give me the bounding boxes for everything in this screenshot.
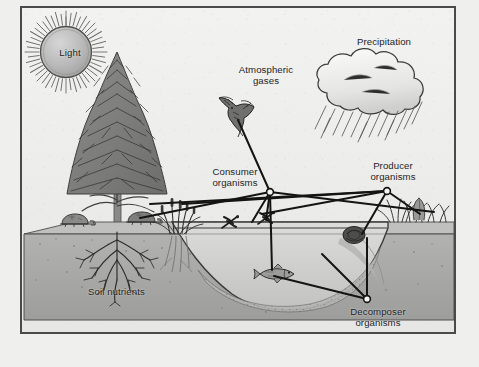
ecosystem-diagram: Light Atmospheric gases Precipitation Co…: [0, 0, 479, 367]
label-decomposer-organisms: Decomposer organisms: [334, 306, 422, 329]
label-producer-organisms: Producer organisms: [356, 160, 430, 183]
flying-bird-icon: [219, 97, 254, 137]
diagram-frame: Light Atmospheric gases Precipitation Co…: [20, 6, 456, 334]
mollusk-icon: [343, 227, 365, 244]
label-light: Light: [48, 47, 92, 58]
decomposer-node: [364, 296, 371, 303]
label-soil-nutrients: Soil nutrients: [88, 286, 184, 297]
consumer-node: [267, 189, 274, 196]
label-atmospheric-gases: Atmospheric gases: [225, 64, 307, 87]
label-precipitation: Precipitation: [341, 36, 427, 47]
rain-cloud-icon: [315, 49, 423, 142]
label-consumer-organisms: Consumer organisms: [198, 166, 272, 189]
producer-node: [384, 188, 391, 195]
